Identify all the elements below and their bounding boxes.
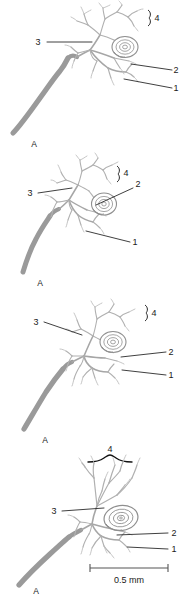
label-4: 4 [154, 13, 159, 23]
label-2: 2 [135, 179, 140, 189]
leader-2 [131, 64, 172, 70]
bracket-marker-4 [148, 10, 150, 26]
leader-1 [86, 231, 130, 242]
panel-2-drawing: 3 2 1 4 A [0, 150, 180, 295]
leader-3 [44, 322, 82, 335]
label-3: 3 [27, 188, 32, 198]
panel-3: 3 2 1 4 A [0, 295, 180, 445]
leader-3 [62, 508, 104, 511]
corpuscle-spiral [112, 37, 138, 58]
panel-2: 3 2 1 4 A [0, 150, 180, 295]
label-1: 1 [171, 544, 176, 554]
axon-label-a: A [37, 278, 43, 288]
label-1: 1 [173, 83, 178, 93]
scalebar-drawing: 0.5 mm [0, 555, 180, 601]
bracket-marker-4 [145, 305, 147, 321]
axon-label-a: A [42, 435, 48, 445]
panel-3-drawing: 3 2 1 4 A [0, 295, 180, 445]
leader-1 [124, 79, 172, 88]
terminal-fan-branches [82, 462, 137, 506]
scalebar-rule [90, 564, 168, 572]
scalebar-label: 0.5 mm [114, 575, 144, 585]
scalebar: 0.5 mm [0, 555, 180, 601]
corpuscle-spiral [100, 332, 126, 353]
leader-1 [127, 547, 168, 549]
leader-2 [121, 352, 166, 357]
label-4: 4 [123, 168, 128, 178]
axon-label-a: A [31, 139, 37, 149]
label-4: 4 [151, 308, 156, 318]
label-2: 2 [173, 65, 178, 75]
axon-trunk [13, 58, 68, 133]
label-1: 1 [168, 370, 173, 380]
label-3: 3 [35, 37, 40, 47]
label-2: 2 [168, 347, 173, 357]
panel-1-drawing: 3 2 1 4 A [0, 0, 180, 150]
label-3: 3 [33, 317, 38, 327]
panel-1: 3 2 1 4 A [0, 0, 180, 150]
axon-trunk [24, 369, 63, 429]
axon-trunk [23, 216, 50, 272]
label-2: 2 [171, 528, 176, 538]
figure-root: 3 2 1 4 A [0, 0, 180, 601]
label-3: 3 [51, 506, 56, 516]
bracket-marker-4 [117, 166, 119, 182]
label-1: 1 [132, 237, 137, 247]
leader-1 [122, 370, 166, 375]
leader-2 [117, 533, 168, 535]
leader-3 [38, 188, 72, 193]
label-4: 4 [107, 444, 112, 454]
corpuscle-spiral [92, 193, 117, 215]
